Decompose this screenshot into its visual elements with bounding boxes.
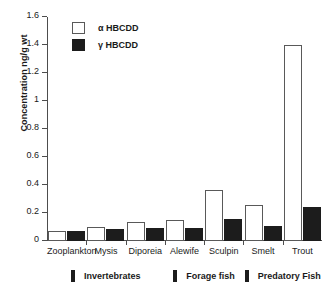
- y-axis-tick-label: 0.8: [26, 122, 39, 132]
- x-axis-label-mysis: Mysis: [86, 246, 125, 256]
- bar-alpha-mysis: [87, 227, 105, 241]
- x-axis-tick: [204, 241, 205, 245]
- bar-alpha-alewife: [166, 220, 184, 241]
- y-axis-tick-label: 1.6: [26, 10, 39, 20]
- y-axis-tick-label: 0.2: [26, 206, 39, 216]
- chart-legend: α HBCDD γ HBCDD: [72, 19, 139, 53]
- bar-group: [245, 17, 282, 241]
- group-label-text: Predatory Fish: [258, 271, 321, 281]
- x-axis-label-alewife: Alewife: [165, 246, 204, 256]
- x-axis-label-sculpin: Sculpin: [204, 246, 243, 256]
- x-axis-tick: [86, 241, 87, 245]
- group-label: Forage fish: [173, 270, 235, 282]
- bar-group: [284, 17, 321, 241]
- legend-swatch-alpha-icon: [72, 22, 85, 34]
- bar-gamma-mysis: [106, 229, 124, 241]
- y-axis-tick: 0.2: [42, 212, 47, 213]
- bar-group: [166, 17, 203, 241]
- bar-gamma-diporeia: [146, 228, 164, 241]
- bar-gamma-zooplankton: [67, 231, 85, 242]
- y-axis-tick: 0.6: [42, 156, 47, 157]
- y-axis-tick-label: 0: [34, 234, 39, 244]
- legend-swatch-gamma-icon: [72, 39, 85, 51]
- group-label: Predatory Fish: [245, 270, 321, 282]
- x-axis-label-smelt: Smelt: [243, 246, 282, 256]
- group-marker-icon: [173, 270, 177, 282]
- x-axis-label-trout: Trout: [283, 246, 322, 256]
- x-axis-label-diporeia: Diporeia: [126, 246, 165, 256]
- y-axis-tick: 0.4: [42, 184, 47, 185]
- bar-gamma-trout: [303, 207, 321, 241]
- bar-gamma-smelt: [264, 226, 282, 241]
- bar-gamma-alewife: [185, 228, 203, 241]
- group-marker-icon: [245, 270, 249, 282]
- y-axis-tick-label: 0.4: [26, 178, 39, 188]
- x-axis-tick: [283, 241, 284, 245]
- bar-chart-figure: Concentration ng/g wt 00.20.40.60.811.21…: [0, 0, 329, 294]
- legend-item-gamma: γ HBCDD: [72, 36, 139, 53]
- group-label: Invertebrates: [71, 270, 141, 282]
- group-marker-icon: [71, 270, 75, 282]
- bar-alpha-sculpin: [205, 190, 223, 241]
- y-axis-tick-label: 1.2: [26, 66, 39, 76]
- y-axis-tick-label: 1: [34, 94, 39, 104]
- y-axis-tick: 1.6: [42, 16, 47, 17]
- legend-label-alpha: α HBCDD: [98, 23, 139, 33]
- bar-alpha-diporeia: [127, 222, 145, 241]
- bar-alpha-zooplankton: [48, 231, 66, 242]
- y-axis-tick: 1.2: [42, 72, 47, 73]
- group-label-text: Invertebrates: [84, 271, 141, 281]
- y-axis-tick-label: 0.6: [26, 150, 39, 160]
- y-axis-tick: 1.4: [42, 44, 47, 45]
- bar-gamma-sculpin: [224, 219, 242, 241]
- bar-group: [205, 17, 242, 241]
- legend-label-gamma: γ HBCDD: [98, 40, 138, 50]
- group-label-text: Forage fish: [186, 271, 235, 281]
- y-axis-title: Concentration ng/g wt: [19, 3, 29, 163]
- x-axis-tick: [126, 241, 127, 245]
- legend-item-alpha: α HBCDD: [72, 19, 139, 36]
- y-axis-tick: 1: [42, 100, 47, 101]
- bar-alpha-smelt: [245, 205, 263, 241]
- x-axis-tick: [243, 241, 244, 245]
- bar-alpha-trout: [284, 45, 302, 241]
- y-axis-tick-label: 1.4: [26, 38, 39, 48]
- x-axis-label-zooplankton: Zooplankton: [47, 246, 86, 256]
- y-axis-tick: 0: [42, 240, 47, 241]
- y-axis-tick: 0.8: [42, 128, 47, 129]
- x-axis-tick: [165, 241, 166, 245]
